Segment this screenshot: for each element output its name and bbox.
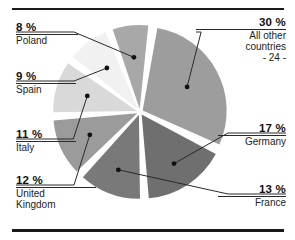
leader-dot-spain: [105, 66, 110, 71]
percent-poland: 8 %: [16, 21, 78, 34]
leader-dot-germany: [172, 161, 177, 166]
callout-united-kingdom: 12 % United Kingdom: [16, 174, 96, 211]
leader-dot-united-kingdom: [87, 132, 92, 137]
label-poland: Poland: [16, 35, 78, 47]
label-united-kingdom-line2: Kingdom: [16, 200, 96, 211]
percent-germany: 17 %: [218, 122, 286, 135]
percent-united-kingdom: 12 %: [16, 174, 96, 187]
callout-spain: 9 % Spain: [16, 70, 76, 96]
label-italy: Italy: [16, 142, 76, 154]
percent-spain: 9 %: [16, 70, 76, 83]
label-france: France: [218, 197, 286, 209]
callout-germany: 17 % Germany: [218, 122, 286, 148]
label-germany: Germany: [218, 136, 286, 148]
callout-italy: 11 % Italy: [16, 128, 76, 154]
label-all-other-countries-line3: - 24 -: [196, 53, 286, 64]
callout-france: 13 % France: [218, 183, 286, 209]
leader-dot-italy: [85, 94, 90, 99]
callout-poland: 8 % Poland: [16, 21, 78, 47]
percent-italy: 11 %: [16, 128, 76, 141]
percent-all-other-countries: 30 %: [196, 16, 286, 29]
leader-dot-france: [116, 167, 121, 172]
label-spain: Spain: [16, 84, 76, 96]
pie-chart-figure: 30 % All other countries - 24 - 17 % Ger…: [0, 0, 295, 240]
leader-dot-all-other-countries: [185, 85, 190, 90]
percent-france: 13 %: [218, 183, 286, 196]
callout-all-other-countries: 30 % All other countries - 24 -: [196, 16, 286, 64]
leader-dot-poland: [132, 55, 137, 60]
